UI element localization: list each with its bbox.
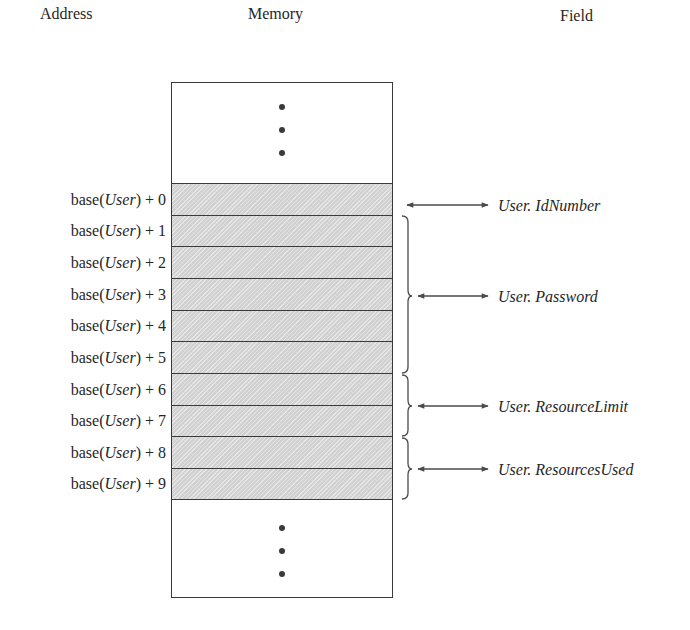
- field-label-resourcesused: User. ResourcesUsed: [498, 461, 633, 479]
- brace-icon: [402, 216, 412, 373]
- brace-icon: [402, 375, 412, 436]
- connectors: [0, 0, 690, 630]
- field-label-idnumber: User. IdNumber: [498, 197, 600, 215]
- brace-icon: [402, 438, 412, 499]
- field-label-password: User. Password: [498, 288, 598, 306]
- field-label-resourcelimit: User. ResourceLimit: [498, 398, 628, 416]
